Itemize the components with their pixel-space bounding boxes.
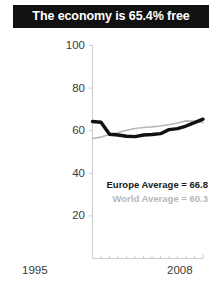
y-tick-label-20: 20 (51, 210, 85, 222)
page-title: The economy is 65.4% free (32, 10, 189, 23)
y-axis-labels: 100 80 60 40 20 (21, 30, 85, 270)
legend-item-europe: Europe Average = 66.8 (96, 178, 208, 192)
y-tick-marks (89, 46, 93, 216)
x-tick-label-start: 1995 (22, 265, 48, 277)
x-tick-label-end: 2008 (167, 265, 193, 277)
y-tick-label-60: 60 (51, 125, 85, 137)
chart-title-banner: The economy is 65.4% free (13, 5, 209, 28)
x-tick-marks (93, 255, 204, 259)
y-tick-label-80: 80 (51, 83, 85, 95)
legend-item-world: World Average = 60.3 (96, 192, 208, 206)
chart-legend: Europe Average = 66.8 World Average = 60… (96, 178, 208, 206)
y-tick-label-100: 100 (51, 40, 85, 52)
economic-freedom-chart: The economy is 65.4% free (0, 0, 214, 299)
y-tick-label-40: 40 (51, 168, 85, 180)
